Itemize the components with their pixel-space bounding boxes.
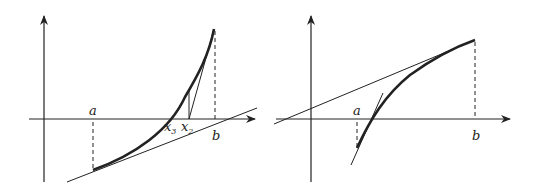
right-label-a: a — [353, 103, 361, 118]
right-label-b: b — [472, 128, 480, 143]
left-secant-x2-x3 — [172, 91, 189, 119]
left-panel: a b x3 x2 — [29, 16, 257, 182]
left-label-b: b — [212, 128, 220, 143]
left-curve — [93, 29, 214, 170]
left-label-a: a — [89, 103, 97, 118]
left-label-x2: x2 — [181, 119, 193, 136]
right-panel: a b — [274, 16, 510, 182]
left-label-x3: x3 — [164, 119, 176, 136]
right-curve — [357, 40, 475, 148]
diagram-canvas: a b x3 x2 a b — [0, 0, 535, 193]
left-secant-b-x2 — [189, 29, 214, 119]
